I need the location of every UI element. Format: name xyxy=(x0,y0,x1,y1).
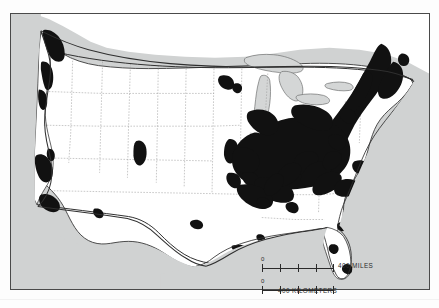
scale-tick-0 xyxy=(262,264,263,272)
scale-tick-4 xyxy=(333,264,334,272)
us-distribution-map xyxy=(11,14,429,289)
top-caption-remnant xyxy=(210,0,435,9)
map-frame xyxy=(10,13,430,290)
map-scale-bar: 0 400 MILES 0 400 KILOMETERS xyxy=(262,263,374,289)
scale-tick-3 xyxy=(316,264,317,272)
scale-tick-2 xyxy=(298,264,299,272)
scale-label-miles: 400 MILES xyxy=(338,262,373,270)
scale-row-kilometers: 0 400 KILOMETERS xyxy=(262,274,374,285)
figure-page: 0 400 MILES 0 400 KILOMETERS xyxy=(0,0,439,308)
scale-tick-km-0 xyxy=(262,286,263,294)
scale-label-kilometers: 400 KILOMETERS xyxy=(278,287,337,295)
scale-tick-1 xyxy=(280,264,281,272)
scale-zero-kilometers: 0 xyxy=(261,278,264,285)
page-bottom-edge xyxy=(0,299,439,300)
scale-row-miles: 0 400 MILES xyxy=(262,263,374,274)
scale-zero-miles: 0 xyxy=(261,256,264,263)
